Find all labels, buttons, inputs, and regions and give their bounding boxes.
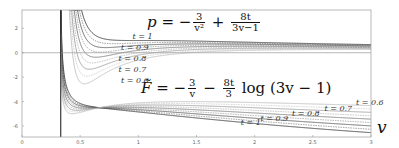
curve-label: t = 0.6 [356, 98, 384, 107]
x-tick-label: 2 [253, 139, 256, 145]
x-tick-label: 2.5 [309, 139, 317, 145]
x-tick-label: 0 [20, 139, 23, 145]
eq-p-frac2: 8t3v−1 [231, 12, 260, 33]
curve-label: t = 1 [133, 32, 153, 41]
curve-label: t = 0.7 [119, 65, 148, 74]
curve-label: t = 0.8 [119, 54, 147, 63]
pressure-equation: p = −3v² + 8t3v−1 [147, 12, 262, 33]
curve-label: t = 0.8 [292, 109, 320, 118]
free-energy-equation: F̃ = −3v − 8t3 log (3v − 1) [141, 78, 331, 99]
curve-label: t = 0.9 [260, 114, 288, 123]
eq-f-tail: log (3v − 1) [242, 79, 332, 97]
y-tick-label: -2 [13, 74, 18, 80]
y-tick-label: 2 [15, 25, 18, 31]
x-axis-label: v [377, 117, 387, 137]
y-tick-label: -6 [13, 123, 18, 129]
eq-f-frac2: 8t3 [223, 78, 235, 99]
eq-f-lhs: F̃ [141, 79, 151, 97]
eq-p-lhs: p [147, 13, 157, 31]
x-tick-label: 3 [369, 139, 372, 145]
y-tick-label: -4 [13, 99, 18, 105]
eq-p-frac1: 3v² [193, 12, 205, 33]
x-tick-label: 1 [137, 139, 140, 145]
y-tick-label: 0 [15, 50, 18, 56]
curve-label: t = 1 [241, 118, 261, 127]
eq-f-frac1: 3v [188, 78, 196, 99]
curve-label: t = 0.7 [324, 104, 353, 113]
x-tick-label: 1.5 [193, 139, 201, 145]
curve-label: t = 0.9 [121, 43, 149, 52]
x-tick-label: 0.5 [76, 139, 84, 145]
